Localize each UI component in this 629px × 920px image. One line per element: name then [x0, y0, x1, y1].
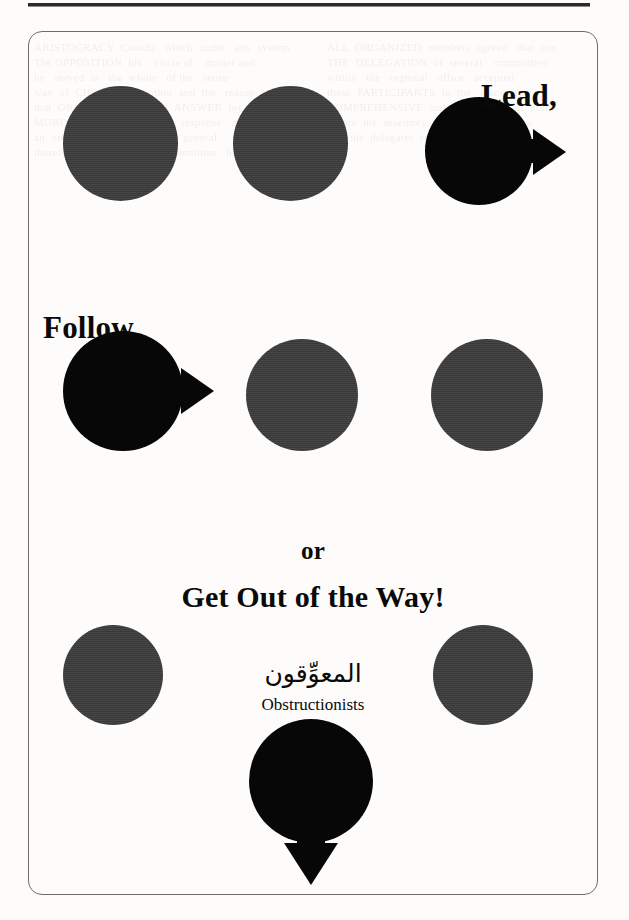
passive-disc: [246, 339, 358, 451]
passive-disc: [431, 339, 543, 451]
node-follower: [63, 331, 228, 451]
node-passive-1: [63, 86, 178, 201]
caption-lead: Lead,: [481, 78, 557, 114]
node-passive-2: [233, 86, 348, 201]
caption-or: or: [29, 537, 597, 565]
page-header-rule: [28, 3, 590, 6]
exiting-arrow-stem: [297, 819, 325, 845]
obstructionists-label-block: المعوِّقون Obstructionists: [29, 656, 597, 716]
caption-get-out-of-the-way: Get Out of the Way!: [29, 580, 597, 614]
leader-arrow-right-icon: [533, 129, 566, 175]
passive-disc: [63, 86, 178, 201]
node-passive-3: [246, 339, 358, 451]
node-passive-4: [431, 339, 543, 451]
scanned-page: ARISTOCRACY Canada which under any syste…: [0, 0, 629, 920]
figure-frame: Lead, Follow, or Get Out of the Way! الم…: [28, 31, 598, 895]
exiting-arrow-down-icon: [284, 843, 338, 885]
follower-arrow-right-icon: [181, 368, 214, 414]
label-arabic: المعوِّقون: [29, 656, 597, 692]
node-exiting: [249, 719, 373, 889]
label-english: Obstructionists: [29, 694, 597, 716]
passive-disc: [233, 86, 348, 201]
